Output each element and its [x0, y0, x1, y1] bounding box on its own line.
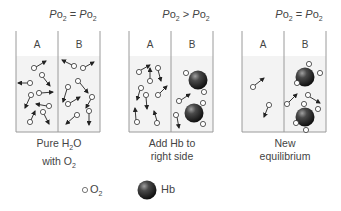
compartment-b-label: B — [302, 39, 309, 50]
compartment-a-label: A — [34, 39, 41, 50]
o2-legend-label: O2 — [90, 183, 102, 197]
panel-3-container: A B — [242, 31, 326, 133]
panel-1-container: A B — [16, 31, 100, 132]
hb-legend-label: Hb — [161, 183, 175, 195]
panel-1-caption: Pure H2O with O2 — [2, 137, 116, 172]
compartment-b-label: B — [189, 39, 196, 50]
panel-3-caption: New equilibrium — [228, 137, 341, 162]
hb-legend-icon — [138, 181, 157, 200]
diagram-canvas: A B — [0, 0, 341, 211]
compartment-b-label: B — [76, 39, 83, 50]
compartment-a-label: A — [260, 39, 267, 50]
o2-legend-icon — [82, 187, 87, 192]
panel-2-container: A B — [129, 31, 213, 132]
compartment-a-label: A — [147, 39, 154, 50]
panel-2-caption: Add Hb to right side — [115, 137, 229, 162]
